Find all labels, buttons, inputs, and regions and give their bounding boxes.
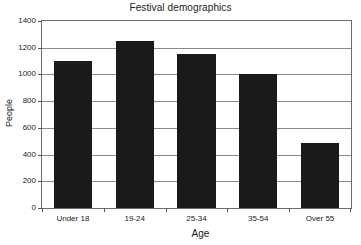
y-axis-tick bbox=[38, 155, 42, 156]
x-axis-tick bbox=[42, 208, 43, 212]
x-axis-tick-label: 35-54 bbox=[227, 214, 289, 223]
y-axis-tick-label: 600 bbox=[4, 124, 36, 132]
x-axis-tick-label: 19-24 bbox=[104, 214, 166, 223]
y-axis-tick-label: 200 bbox=[4, 177, 36, 185]
y-axis-tick bbox=[38, 181, 42, 182]
bar bbox=[239, 74, 277, 208]
y-axis-tick-label: 1000 bbox=[4, 70, 36, 78]
y-axis-tick-label: 400 bbox=[4, 151, 36, 159]
y-axis-tick-label: 1200 bbox=[4, 44, 36, 52]
x-axis-tick bbox=[289, 208, 290, 212]
y-axis-tick bbox=[38, 21, 42, 22]
plot-area: 0200400600800100012001400Under 1819-2425… bbox=[41, 20, 352, 209]
y-axis-tick bbox=[38, 48, 42, 49]
y-axis-tick-label: 1400 bbox=[4, 17, 36, 25]
x-axis-tick bbox=[104, 208, 105, 212]
bar bbox=[177, 54, 215, 208]
x-axis-tick bbox=[350, 208, 351, 212]
x-axis-label: Age bbox=[40, 228, 361, 240]
y-axis-tick bbox=[38, 128, 42, 129]
y-axis-tick bbox=[38, 74, 42, 75]
x-axis-tick-label: Under 18 bbox=[42, 214, 104, 223]
x-axis-tick-label: 25-34 bbox=[166, 214, 228, 223]
gridline bbox=[42, 48, 351, 49]
bar bbox=[116, 41, 154, 208]
bar bbox=[54, 61, 92, 208]
y-axis-tick-label: 800 bbox=[4, 97, 36, 105]
x-axis-tick-label: Over 55 bbox=[289, 214, 351, 223]
y-axis-tick bbox=[38, 101, 42, 102]
x-axis-tick bbox=[166, 208, 167, 212]
y-axis-tick-label: 0 bbox=[4, 204, 36, 212]
y-axis-label: People bbox=[4, 83, 14, 143]
x-axis-tick bbox=[227, 208, 228, 212]
bar bbox=[301, 143, 339, 208]
chart-title: Festival demographics bbox=[0, 2, 361, 14]
bar-chart: Festival demographics People 02004006008… bbox=[0, 0, 361, 245]
